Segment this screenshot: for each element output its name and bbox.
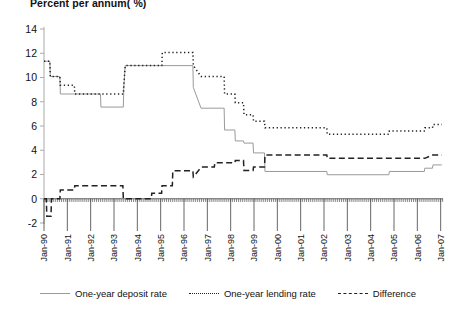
x-axis-tick-label: Jan-02 xyxy=(319,234,329,262)
y-axis-tick-label: 2 xyxy=(31,168,37,180)
y-axis-tick-label: 10 xyxy=(25,71,37,83)
x-axis-tick-label: Jan-90 xyxy=(39,234,49,262)
legend-label: One-year lending rate xyxy=(224,288,316,299)
legend-item-0[interactable]: One-year deposit rate xyxy=(40,288,167,299)
x-axis-tick-label: Jan-95 xyxy=(156,234,166,262)
x-axis-tick-label: Jan-01 xyxy=(296,234,306,262)
x-axis-tick-label: Jan-00 xyxy=(273,234,283,262)
legend-label: One-year deposit rate xyxy=(75,288,167,299)
x-axis-tick-label: Jan-97 xyxy=(203,234,213,262)
legend-label: Difference xyxy=(373,288,416,299)
x-axis-tick-label: Jan-93 xyxy=(109,234,119,262)
chart-container: Percent per annum( %) -202468101214Jan-9… xyxy=(0,0,456,313)
x-axis-tick-label: Jan-92 xyxy=(86,234,96,262)
x-axis-tick-label: Jan-94 xyxy=(133,234,143,262)
y-axis-tick-label: 4 xyxy=(31,144,37,156)
y-axis-tick-label: 6 xyxy=(31,120,37,132)
x-axis-tick-label: Jan-99 xyxy=(249,234,259,262)
y-axis-tick-label: -2 xyxy=(28,217,37,229)
x-axis-tick-label: Jan-91 xyxy=(63,234,73,262)
y-axis-tick-label: 12 xyxy=(25,47,37,59)
y-axis-tick-label: 8 xyxy=(31,96,37,108)
legend-swatch-dotted-icon xyxy=(189,293,219,294)
x-axis-tick-label: Jan-96 xyxy=(179,234,189,262)
y-axis-tick-label: 0 xyxy=(31,193,37,205)
series-line-1 xyxy=(44,53,442,135)
x-axis-tick-label: Jan-06 xyxy=(413,234,423,262)
y-axis-tick-label: 14 xyxy=(25,23,37,35)
x-axis-tick-label: Jan-98 xyxy=(226,234,236,262)
chart-legend: One-year deposit rateOne-year lending ra… xyxy=(0,288,456,299)
legend-item-2[interactable]: Difference xyxy=(338,288,416,299)
legend-swatch-solid-icon xyxy=(40,293,70,294)
legend-item-1[interactable]: One-year lending rate xyxy=(189,288,316,299)
x-axis-tick-label: Jan-05 xyxy=(389,234,399,262)
x-axis-tick-label: Jan-03 xyxy=(343,234,353,262)
plot-area: -202468101214Jan-90Jan-91Jan-92Jan-93Jan… xyxy=(0,0,456,313)
x-axis-tick-label: Jan-04 xyxy=(366,234,376,262)
series-line-2 xyxy=(44,155,442,216)
x-axis-tick-label: Jan-07 xyxy=(436,234,446,262)
legend-swatch-dashed-icon xyxy=(338,293,368,294)
